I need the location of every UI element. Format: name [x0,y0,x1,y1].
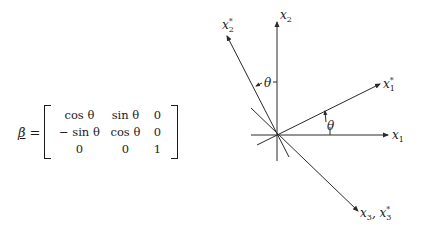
x1-label: x1 [392,128,404,144]
x2-star-label: x*2 [222,17,234,34]
x2-star-axis-line [227,36,289,157]
theta-arrow [325,111,326,122]
x3-label: x3, x*3 [360,205,391,222]
x3-axis-line [251,108,358,211]
theta-label-upper: θ [264,76,272,90]
theta-label-lower: θ [327,119,335,133]
theta-arrow [256,83,262,86]
x2-label: x2 [280,8,292,24]
x1-star-axis-line [257,84,380,145]
x1-star-label: x*1 [383,76,395,93]
axes-diagram: x2 x*2 x*1 x1 x3, x*3 θ θ [0,0,425,231]
